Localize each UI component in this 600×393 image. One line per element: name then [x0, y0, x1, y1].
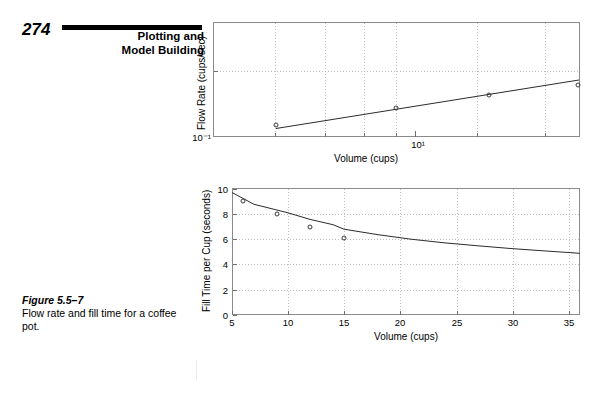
data-point-fill-2	[275, 212, 280, 217]
book-page: 274 Plotting and Model Building Figure 5…	[0, 0, 600, 393]
page-bleed-rule	[196, 360, 197, 380]
page-bleed-text	[108, 386, 508, 393]
chart-fill-time: 5 10 15 20 25 30 35 0 2 4 6 8 10 Volume …	[0, 0, 600, 393]
data-point-fill-4	[342, 236, 347, 241]
data-point-fill-3	[308, 225, 313, 230]
fill-time-fit-curve	[0, 0, 600, 393]
data-point-fill-1	[241, 199, 246, 204]
